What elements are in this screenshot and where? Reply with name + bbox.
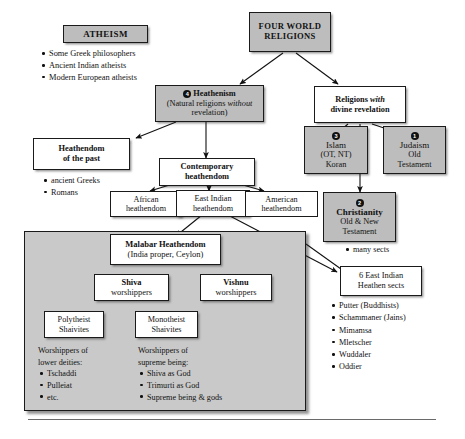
polytheist-detail: Worshippers of lower deities: Tschaddi P… <box>38 345 88 403</box>
node-vishnu-worshippers: Vishnu worshippers <box>200 274 272 301</box>
node-revelation-line2: divine revelation <box>330 105 389 114</box>
diagram-canvas: ATHEISM Some Greek philosophers Ancient … <box>0 0 465 439</box>
node-polytheist-line1: Polytheist <box>58 315 91 324</box>
node-past-line2: of the past <box>63 154 100 164</box>
list-item: Mimamsa <box>339 325 406 337</box>
node-past-line1: Heathendom <box>58 144 104 154</box>
list-item: Mletscher <box>339 337 406 349</box>
node-four-world-religions-line2: RELIGIONS <box>264 32 315 42</box>
list-item: Pulleiat <box>47 380 88 392</box>
east-indian-sects-list: Putter (Buddhists) Schammaner (Jains) Mi… <box>330 300 406 374</box>
node-monotheist-shaivites: Monotheist Shaivites <box>135 311 198 338</box>
node-american-heathendom: American heathendom <box>245 191 318 217</box>
node-vishnu-line1: Vishnu <box>223 278 248 288</box>
node-african-line2: heathendom <box>126 204 166 213</box>
node-african-line1: African <box>133 195 158 204</box>
node-heathenism: 4 Heathenism (Natural religions without … <box>155 85 264 122</box>
node-malabar-line2: (India proper, Ceylon) <box>128 250 204 260</box>
christianity-list: many sects <box>344 244 389 256</box>
list-item: Schammaner (Jains) <box>339 312 406 324</box>
list-item: Supreme being & gods <box>147 392 222 404</box>
node-vishnu-line2: worshippers <box>216 288 257 298</box>
badge-1-wrap: 1 <box>411 131 419 140</box>
monotheist-heading-line1: Worshippers of <box>138 345 222 357</box>
node-american-line1: American <box>265 195 297 204</box>
node-heathenism-line2: (Natural religions without <box>167 99 253 108</box>
node-east-indian-line2: heathendom <box>193 204 233 213</box>
badge-3: 3 <box>332 132 340 140</box>
polytheist-heading-line2: lower deities: <box>38 357 88 369</box>
node-heathenism-line3: revelation) <box>192 108 228 117</box>
heathendom-past-list: ancient Greeks Romans <box>42 175 100 198</box>
node-christianity-line1: Christianity <box>336 207 383 217</box>
node-monotheist-line1: Monotheist <box>148 315 185 324</box>
node-revelation-line1: Religions with <box>335 95 385 104</box>
badge-3-wrap: 3 <box>332 131 340 140</box>
list-item: Wuddaler <box>339 349 406 361</box>
badge-2: 2 <box>356 199 364 207</box>
node-judaism-line2: Old <box>408 150 420 159</box>
node-east-indian-line1: East Indian <box>194 194 231 203</box>
list-item: Some Greek philosophers <box>49 48 137 60</box>
list-item: Oddier <box>339 361 406 373</box>
node-shiva-line1: Shiva <box>121 278 141 288</box>
list-item: Tschaddi <box>47 368 88 380</box>
node-islam-line2: (OT, NT) <box>320 150 351 159</box>
list-item: Ancient Indian atheists <box>49 60 137 72</box>
badge-1: 1 <box>411 132 419 140</box>
node-contemporary-line2: heathendom <box>185 172 229 182</box>
node-religions-with-revelation: Religions with divine revelation <box>314 86 406 123</box>
list-item: Putter (Buddhists) <box>339 300 406 312</box>
list-item: Modern European atheists <box>49 72 137 84</box>
list-item: many sects <box>353 244 389 256</box>
list-item: etc. <box>47 392 88 404</box>
node-malabar-heathendom: Malabar Heathendom (India proper, Ceylon… <box>110 234 221 265</box>
figure-caption <box>0 428 465 439</box>
badge-4: 4 <box>183 90 191 98</box>
node-polytheist-shaivites: Polytheist Shaivites <box>44 311 104 338</box>
node-atheism-label: ATHEISM <box>83 29 128 39</box>
node-islam-line3: Koran <box>326 160 347 169</box>
list-item: Shiva as God <box>147 368 222 380</box>
badge-2-wrap: 2 <box>356 198 364 207</box>
caption-rule <box>28 419 436 420</box>
node-contemporary-heathendom: Contemporary heathendom <box>159 158 255 186</box>
list-item: Trimurti as God <box>147 380 222 392</box>
node-islam-line1: Islam <box>326 140 346 150</box>
list-item: Romans <box>51 187 100 199</box>
node-shiva-line2: worshippers <box>111 288 152 298</box>
node-christianity: 2 Christianity Old & New Testament <box>323 192 396 242</box>
polytheist-heading-line1: Worshippers of <box>38 345 88 357</box>
node-sects-line2: Heathen sects <box>358 281 404 291</box>
node-east-indian-heathendom: East Indian heathendom <box>176 190 250 217</box>
node-heathenism-line1: 4 Heathenism <box>183 89 235 98</box>
node-heathendom-of-the-past: Heathendom of the past <box>33 138 130 170</box>
node-atheism: ATHEISM <box>63 25 148 43</box>
node-islam: 3 Islam (OT, NT) Koran <box>304 126 368 174</box>
node-shiva-worshippers: Shiva worshippers <box>94 274 169 301</box>
node-judaism-line1: Judaism <box>400 140 430 150</box>
node-polytheist-line2: Shaivites <box>59 325 89 334</box>
node-american-line2: heathendom <box>261 204 301 213</box>
node-judaism-line3: Testament <box>398 160 432 169</box>
node-contemporary-line1: Contemporary <box>180 162 233 172</box>
atheism-list: Some Greek philosophers Ancient Indian a… <box>40 48 137 84</box>
node-four-world-religions: FOUR WORLD RELIGIONS <box>249 12 331 52</box>
node-monotheist-line2: Shaivites <box>151 325 181 334</box>
list-item: ancient Greeks <box>51 175 100 187</box>
monotheist-heading-line2: supreme being: <box>138 357 222 369</box>
node-east-indian-heathen-sects: 6 East Indian Heathen sects <box>340 266 422 296</box>
node-christianity-line2: Old & New <box>340 217 379 226</box>
node-sects-line1: 6 East Indian <box>359 271 403 281</box>
node-judaism: 1 Judaism Old Testament <box>383 126 446 174</box>
node-african-heathendom: African heathendom <box>110 191 182 217</box>
monotheist-detail: Worshippers of supreme being: Shiva as G… <box>138 345 222 403</box>
node-christianity-line3: Testament <box>343 227 377 236</box>
